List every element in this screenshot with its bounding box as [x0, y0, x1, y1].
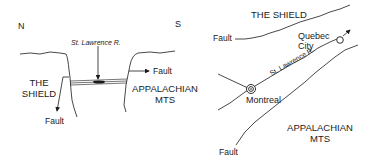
map-tributary-line	[218, 74, 248, 88]
map-shield-label: THE SHIELD	[251, 10, 307, 19]
map-fault-top-label: Fault	[213, 34, 232, 43]
river-water	[93, 80, 105, 83]
map-appalachian-line1: APPALACHIAN	[283, 123, 357, 134]
quebec-label-line1: Quebec	[298, 31, 330, 41]
map-appalachian-line2: MTS	[283, 134, 357, 145]
cross-section-appalachian-label: APPALACHIAN MTS	[128, 84, 202, 105]
montreal-label: Montreal	[246, 96, 281, 105]
shield-label-line2: SHIELD	[20, 89, 58, 100]
north-label: N	[18, 22, 25, 31]
quebec-city-symbol	[337, 37, 344, 44]
cross-section-fault-right-label: Fault	[153, 67, 172, 76]
appalachian-label-line1: APPALACHIAN	[128, 84, 202, 95]
map-river-arrow	[343, 30, 350, 36]
appalachian-label-line2: MTS	[128, 95, 202, 106]
map-appalachian-label: APPALACHIAN MTS	[283, 123, 357, 144]
shield-surface-line	[20, 52, 70, 77]
cross-section-shield-label: THE SHIELD	[20, 78, 58, 99]
left-fault-arrow	[57, 77, 69, 111]
south-label: S	[175, 20, 181, 29]
quebec-city-label: Quebec City	[298, 31, 330, 51]
cross-section-river-label: St. Lawrence R.	[71, 38, 121, 47]
shield-label-line1: THE	[20, 78, 58, 89]
cross-section-fault-left-label: Fault	[45, 117, 64, 126]
montreal-city-symbol	[247, 85, 256, 94]
map-fault-bottom-label: Fault	[219, 148, 238, 157]
